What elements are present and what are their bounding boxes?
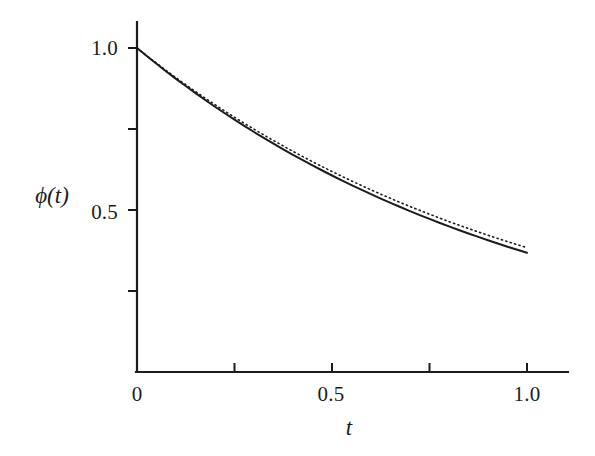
y-axis-title: ϕ(t)	[35, 183, 69, 209]
y-tick-label-1-0: 1.0	[20, 36, 118, 61]
x-tick-label-0: 0	[132, 382, 143, 407]
series-layer	[137, 48, 527, 253]
plot-area	[0, 0, 595, 456]
x-tick-label-1-0: 1.0	[514, 382, 541, 407]
series-line-numerical-approximation	[137, 48, 527, 248]
x-tick-label-0-5: 0.5	[318, 382, 345, 407]
x-axis-title: t	[346, 415, 352, 441]
y-axis-ticks	[128, 48, 137, 291]
series-line-exact-solution	[137, 48, 527, 253]
x-axis-ticks	[137, 363, 527, 372]
figure-canvas: 1.0 0.5 0 0.5 1.0 ϕ(t) t	[0, 0, 595, 456]
axis-lines	[136, 22, 568, 372]
